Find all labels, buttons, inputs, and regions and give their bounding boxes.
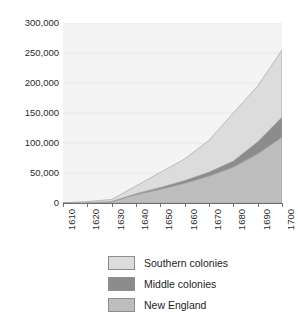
chart-legend: Southern colonies Middle colonies New En…: [108, 256, 228, 312]
x-tick-mark: [233, 203, 234, 207]
x-tick-label: 1680: [237, 209, 247, 230]
y-tick-label: 150,000: [3, 108, 59, 118]
y-tick-label: 200,000: [3, 78, 59, 88]
legend-item-new-england: New England: [108, 298, 228, 312]
x-tick-label: 1620: [91, 209, 101, 230]
x-axis-line: [63, 203, 282, 204]
legend-label-middle-colonies: Middle colonies: [144, 279, 216, 290]
x-tick-label: 1650: [164, 209, 174, 230]
x-tick-mark: [136, 203, 137, 207]
legend-item-middle-colonies: Middle colonies: [108, 277, 228, 291]
x-tick-label: 1700: [286, 209, 296, 230]
x-tick-label: 1610: [67, 209, 77, 230]
y-tick-label: 250,000: [3, 48, 59, 58]
legend-item-southern-colonies: Southern colonies: [108, 256, 228, 270]
x-tick-label: 1690: [262, 209, 272, 230]
stacked-area-svg: [63, 23, 282, 203]
x-tick-label: 1670: [213, 209, 223, 230]
x-tick-mark: [87, 203, 88, 207]
y-axis-labels: 300,000 250,000 200,000 150,000 100,000 …: [0, 0, 59, 250]
x-tick-label: 1630: [116, 209, 126, 230]
x-tick-mark: [282, 203, 283, 207]
x-tick-mark: [63, 203, 64, 207]
colonial-population-area-chart: 300,000 250,000 200,000 150,000 100,000 …: [0, 0, 298, 331]
legend-swatch-middle-colonies: [108, 277, 135, 291]
x-tick-mark: [258, 203, 259, 207]
x-tick-label: 1660: [189, 209, 199, 230]
y-tick-label: 100,000: [3, 138, 59, 148]
x-tick-mark: [112, 203, 113, 207]
legend-swatch-new-england: [108, 298, 135, 312]
y-tick-label: 0: [3, 198, 59, 208]
x-tick-mark: [160, 203, 161, 207]
y-tick-label: 50,000: [3, 168, 59, 178]
plot-area: [63, 23, 282, 203]
x-tick-label: 1640: [140, 209, 150, 230]
legend-label-new-england: New England: [144, 300, 206, 311]
x-tick-mark: [185, 203, 186, 207]
legend-swatch-southern-colonies: [108, 256, 135, 270]
legend-label-southern-colonies: Southern colonies: [144, 258, 228, 269]
x-tick-mark: [209, 203, 210, 207]
y-tick-label: 300,000: [3, 18, 59, 28]
plot-wrapper: 300,000 250,000 200,000 150,000 100,000 …: [0, 0, 298, 250]
